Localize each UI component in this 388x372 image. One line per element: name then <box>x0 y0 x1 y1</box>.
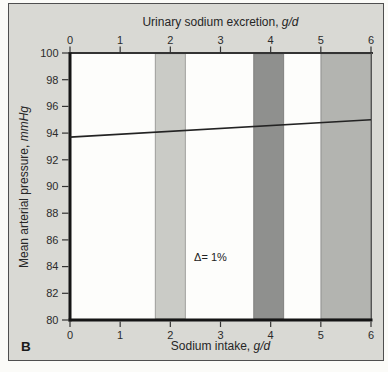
left-tick-label-92: 92 <box>46 154 58 166</box>
top-axis-title: Urinary sodium excretion, g/d <box>70 16 371 29</box>
top-tick-label-3: 3 <box>217 34 223 46</box>
top-axis-title-text: Urinary sodium excretion, <box>142 15 281 29</box>
left-axis-title: Mean arterial pressure, mmHg <box>18 106 31 268</box>
left-tick-label-96: 96 <box>46 100 58 112</box>
left-tick-label-86: 86 <box>46 234 58 246</box>
top-tick-label-0: 0 <box>67 34 73 46</box>
left-tick-label-100: 100 <box>40 47 58 59</box>
left-tick-label-82: 82 <box>46 287 58 299</box>
left-tick-label-84: 84 <box>46 260 58 272</box>
bottom-axis-title: Sodium intake, g/d <box>70 340 371 353</box>
figure-canvas: 0123456012345610098969492908886848280 Ur… <box>0 0 388 372</box>
left-tick-label-90: 90 <box>46 180 58 192</box>
left-axis-title-text: Mean arterial pressure, <box>17 141 31 268</box>
chart: 0123456012345610098969492908886848280 <box>0 0 388 372</box>
top-tick-label-1: 1 <box>117 34 123 46</box>
bottom-axis-title-unit: g/d <box>254 339 271 353</box>
top-axis-title-unit: g/d <box>282 15 299 29</box>
left-axis-title-unit: mmHg <box>17 106 31 141</box>
top-tick-label-6: 6 <box>368 34 374 46</box>
top-tick-label-5: 5 <box>318 34 324 46</box>
shaded-band-5-6gd <box>321 54 371 319</box>
delta-annotation: Δ= 1% <box>194 251 227 263</box>
left-tick-label-94: 94 <box>46 127 58 139</box>
left-tick-label-88: 88 <box>46 207 58 219</box>
top-tick-label-4: 4 <box>268 34 274 46</box>
left-tick-label-80: 80 <box>46 314 58 326</box>
top-tick-label-2: 2 <box>167 34 173 46</box>
shaded-band-4gd <box>254 54 284 319</box>
shaded-band-2gd <box>155 54 185 319</box>
left-tick-label-98: 98 <box>46 74 58 86</box>
panel-label: B <box>21 339 31 354</box>
bottom-axis-title-text: Sodium intake, <box>171 339 254 353</box>
